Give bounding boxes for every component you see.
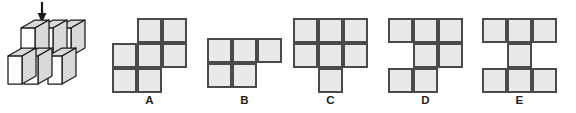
puzzle-canvas: ABCDE [0,0,576,113]
answer-option-e[interactable]: E [472,0,567,113]
grid-cell [318,18,343,43]
option-label-a: A [104,94,195,106]
grid-cell [162,18,187,43]
grid-cell [507,43,532,68]
answer-option-b[interactable]: B [197,0,292,113]
option-label-c: C [283,94,378,106]
grid-cell [137,18,162,43]
grid-cell [137,68,162,93]
option-label-b: B [197,94,292,106]
grid-cell [232,38,257,63]
grid-cell [413,43,438,68]
grid-cell [207,63,232,88]
grid-cell [532,18,557,43]
option-a-grid [112,18,187,93]
grid-cell [137,43,162,68]
grid-cell [438,18,463,43]
grid-cell [293,43,318,68]
option-d-grid [388,18,463,93]
grid-cell [413,18,438,43]
grid-cell [482,18,507,43]
option-b-grid [207,38,282,88]
answer-option-a[interactable]: A [104,0,195,113]
grid-cell [112,43,137,68]
grid-cell [482,68,507,93]
isometric-cube-stack [0,0,100,100]
grid-cell [207,38,232,63]
grid-cell [388,68,413,93]
option-label-d: D [378,94,473,106]
grid-cell [257,38,282,63]
answer-option-c[interactable]: C [283,0,378,113]
grid-cell [388,18,413,43]
grid-cell [343,43,368,68]
grid-cell [532,68,557,93]
option-c-grid [293,18,368,93]
grid-cell [413,68,438,93]
grid-cell [318,43,343,68]
grid-cell [507,18,532,43]
grid-cell [293,18,318,43]
grid-cell [438,43,463,68]
grid-cell [507,68,532,93]
answer-option-d[interactable]: D [378,0,473,113]
grid-cell [162,43,187,68]
grid-cell [343,18,368,43]
grid-cell [232,63,257,88]
option-e-grid [482,18,557,93]
grid-cell [318,68,343,93]
grid-cell [112,68,137,93]
option-label-e: E [472,94,567,106]
